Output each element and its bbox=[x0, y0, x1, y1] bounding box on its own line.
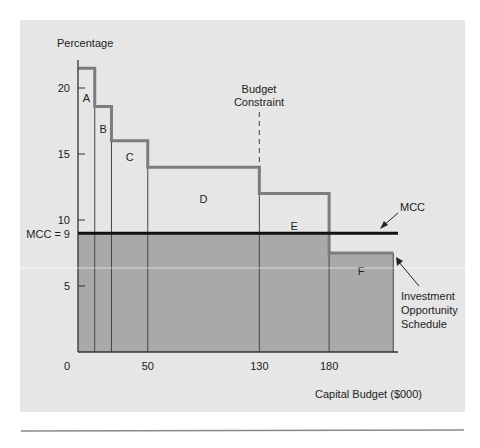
y-tick-label-20: 20 bbox=[58, 82, 70, 94]
y-tick-label-10: 10 bbox=[58, 214, 70, 226]
budget-constraint-label-line2: Constraint bbox=[234, 96, 284, 108]
project-label-d: D bbox=[200, 193, 208, 205]
x-tick-label-130: 130 bbox=[250, 360, 268, 372]
y-tick-label-15: 15 bbox=[58, 148, 70, 160]
project-fill-a bbox=[78, 233, 95, 352]
project-fill-e bbox=[259, 233, 329, 352]
project-label-e: E bbox=[291, 220, 298, 232]
project-label-a: A bbox=[83, 92, 91, 104]
budget-constraint-label-line1: Budget bbox=[242, 83, 277, 95]
capital-budget-chart: ABCDEF 5101520 050130180 Percentage Capi… bbox=[0, 0, 480, 448]
y-tick-label-5: 5 bbox=[64, 280, 70, 292]
ios-label-line1: Investment bbox=[401, 290, 455, 302]
ios-label-line2: Opportunity bbox=[401, 304, 458, 316]
x-tick-label-180: 180 bbox=[320, 360, 338, 372]
x-tick-label-0: 0 bbox=[64, 360, 70, 372]
x-axis-title: Capital Budget ($000) bbox=[315, 388, 422, 400]
x-tick-label-50: 50 bbox=[142, 360, 154, 372]
footer-rule bbox=[21, 430, 464, 431]
mcc-callout-label: MCC bbox=[400, 201, 425, 213]
project-label-c: C bbox=[126, 151, 134, 163]
project-fill-c bbox=[111, 233, 147, 352]
ios-label-line3: Schedule bbox=[401, 318, 447, 330]
project-label-b: B bbox=[99, 123, 106, 135]
mcc-axis-label: MCC = 9 bbox=[26, 228, 70, 240]
chart-panel bbox=[20, 20, 465, 412]
project-fill-b bbox=[95, 233, 112, 352]
project-fill-d bbox=[148, 233, 260, 352]
project-label-f: F bbox=[358, 265, 365, 277]
y-axis-title: Percentage bbox=[57, 37, 113, 49]
